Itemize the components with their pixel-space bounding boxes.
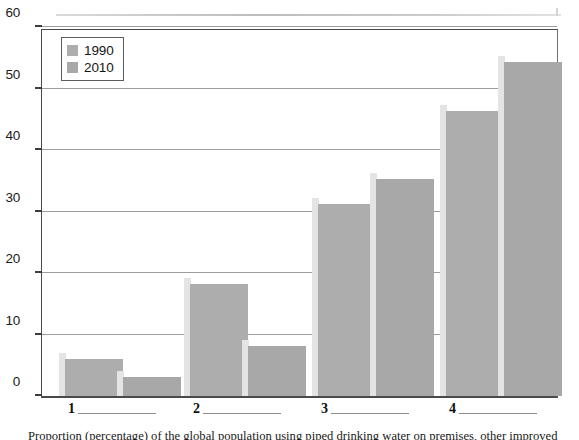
figure-caption: Proportion (percentage) of the global po… [28, 429, 576, 440]
legend-item-1990[interactable]: 1990 [67, 42, 114, 59]
legend-swatch-1990-icon [67, 45, 78, 56]
x-axis-label-text-1: 1 [68, 402, 75, 416]
y-axis-label-10: 10 [5, 312, 20, 327]
y-tick-40 [35, 148, 42, 150]
bar-2010-group-2[interactable] [248, 346, 306, 396]
bar-1990-group-4[interactable] [446, 111, 504, 396]
y-axis-label-60: 60 [5, 5, 20, 20]
y-axis-label-40: 40 [5, 128, 20, 143]
y-axis-label-0: 0 [13, 374, 20, 389]
legend-item-2010[interactable]: 2010 [67, 59, 114, 76]
x-axis-label-1: 1 [68, 402, 156, 416]
x-axis-labels: 1234 [41, 402, 558, 424]
x-axis-label-3: 3 [321, 402, 409, 416]
legend-swatch-2010-icon [67, 62, 78, 73]
x-axis-blank-line-3 [331, 413, 409, 414]
bar-group-4 [446, 30, 562, 396]
top-divider-rule [56, 14, 561, 16]
x-axis-label-text-3: 3 [321, 402, 328, 416]
y-tick-60 [35, 25, 42, 27]
bar-group-2 [190, 30, 306, 396]
bar-1990-group-1[interactable] [65, 359, 123, 396]
bar-group-1 [65, 30, 181, 396]
y-axis-label-30: 30 [5, 189, 20, 204]
y-tick-30 [35, 210, 42, 212]
chart-legend: 1990 2010 [61, 37, 124, 81]
legend-label-1990: 1990 [84, 44, 114, 58]
y-tick-10 [35, 333, 42, 335]
gridline-60 [42, 26, 557, 27]
y-tick-50 [35, 87, 42, 89]
bar-1990-group-3[interactable] [318, 204, 376, 396]
x-axis-label-text-4: 4 [449, 402, 456, 416]
bar-group-3 [318, 30, 434, 396]
y-axis-label-50: 50 [5, 66, 20, 81]
y-tick-0 [35, 394, 42, 396]
top-divider-tail [556, 8, 558, 16]
bar-2010-group-3[interactable] [376, 179, 434, 396]
x-axis-blank-line-4 [459, 413, 537, 414]
legend-label-2010: 2010 [84, 61, 114, 75]
bar-1990-group-2[interactable] [190, 284, 248, 396]
y-tick-20 [35, 271, 42, 273]
bar-series-container [42, 30, 557, 396]
x-axis-label-2: 2 [193, 402, 281, 416]
bar-2010-group-1[interactable] [123, 377, 181, 396]
bar-2010-group-4[interactable] [504, 62, 562, 396]
y-axis-label-20: 20 [5, 251, 20, 266]
x-axis-label-4: 4 [449, 402, 537, 416]
x-axis-blank-line-2 [203, 413, 281, 414]
plot-area: 0102030405060 [41, 29, 558, 398]
chart-page: 0102030405060 1234 1990 2010 Proportion … [0, 0, 579, 440]
x-axis-blank-line-1 [78, 413, 156, 414]
x-axis-label-text-2: 2 [193, 402, 200, 416]
